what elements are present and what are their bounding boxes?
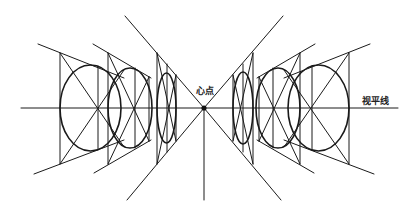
center-point-label: 心点 <box>196 87 214 96</box>
horizon-line-label: 视平线 <box>362 97 389 106</box>
perspective-diagram <box>0 0 415 216</box>
right-large-circle-unit <box>284 44 374 174</box>
vanishing-ray-top-left <box>125 16 204 108</box>
center-point-dot <box>201 105 206 110</box>
left-large-circle-unit <box>34 44 124 174</box>
